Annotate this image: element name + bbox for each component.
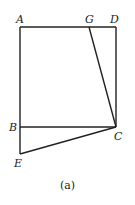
point-label-A: A	[16, 14, 24, 25]
point-label-C: C	[114, 131, 122, 142]
point-label-E: E	[14, 158, 22, 169]
point-label-D: D	[110, 14, 119, 25]
figure-caption: (a)	[60, 180, 75, 191]
segment-EC	[20, 127, 116, 154]
geometry-diagram	[0, 0, 135, 205]
segment-GC	[89, 27, 116, 127]
point-label-B: B	[9, 122, 17, 133]
point-label-G: G	[85, 14, 94, 25]
